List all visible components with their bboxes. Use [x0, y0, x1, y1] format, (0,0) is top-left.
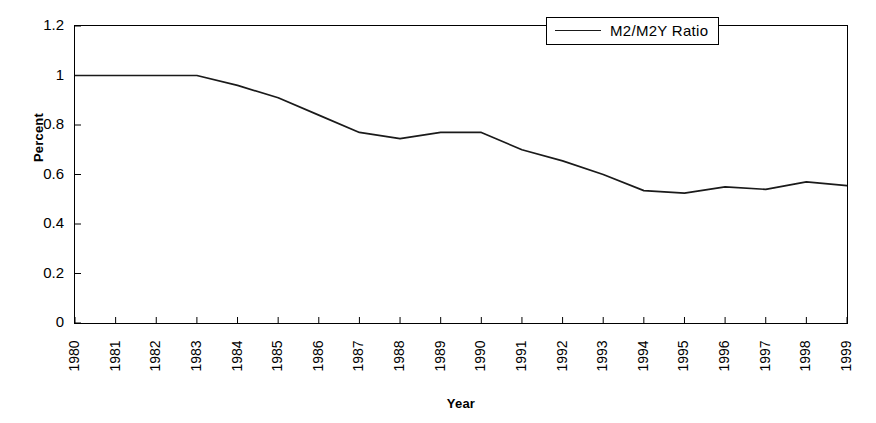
y-tick-label: 0.2 — [24, 266, 64, 280]
x-tick-label: 1992 — [555, 325, 569, 387]
x-axis-ticks — [75, 317, 847, 323]
x-tick-label: 1985 — [270, 325, 284, 387]
x-tick-label: 1994 — [636, 325, 650, 387]
line-series-canvas — [75, 26, 847, 323]
x-tick-label: 1991 — [514, 325, 528, 387]
x-tick-label: 1999 — [839, 325, 853, 387]
x-tick-label: 1984 — [230, 325, 244, 387]
x-tick-label: 1989 — [433, 325, 447, 387]
y-tick-label: 0.4 — [24, 216, 64, 230]
y-tick-label: 1.2 — [24, 18, 64, 32]
y-tick-label: 0 — [24, 315, 64, 329]
chart-legend: M2/M2Y Ratio — [546, 17, 719, 45]
x-tick-label: 1987 — [351, 325, 365, 387]
x-tick-label: 1983 — [189, 325, 203, 387]
y-tick-label: 0.8 — [24, 117, 64, 131]
data-line-m2-m2y-ratio — [75, 76, 847, 194]
x-axis-label: Year — [74, 396, 848, 411]
x-tick-label: 1986 — [311, 325, 325, 387]
y-tick-label: 1 — [24, 68, 64, 82]
x-tick-label: 1995 — [676, 325, 690, 387]
plot-area — [74, 25, 848, 324]
x-tick-label: 1998 — [798, 325, 812, 387]
legend-label-m2-m2y-ratio: M2/M2Y Ratio — [610, 23, 708, 38]
x-tick-label: 1982 — [148, 325, 162, 387]
chart-figure: Percent 00.20.40.60.811.2 M2/M2Y Ratio 1… — [0, 0, 876, 423]
x-tick-label: 1993 — [595, 325, 609, 387]
y-axis-tick-labels: 00.20.40.60.811.2 — [22, 0, 64, 423]
y-axis-ticks — [75, 26, 81, 323]
x-axis-tick-labels: 1980198119821983198419851986198719881989… — [74, 325, 848, 387]
x-tick-label: 1990 — [473, 325, 487, 387]
x-tick-label: 1996 — [717, 325, 731, 387]
x-tick-label: 1981 — [108, 325, 122, 387]
x-tick-label: 1988 — [392, 325, 406, 387]
x-tick-label: 1997 — [758, 325, 772, 387]
y-tick-label: 0.6 — [24, 167, 64, 181]
x-tick-label: 1980 — [67, 325, 81, 387]
legend-line-swatch-icon — [555, 30, 601, 31]
